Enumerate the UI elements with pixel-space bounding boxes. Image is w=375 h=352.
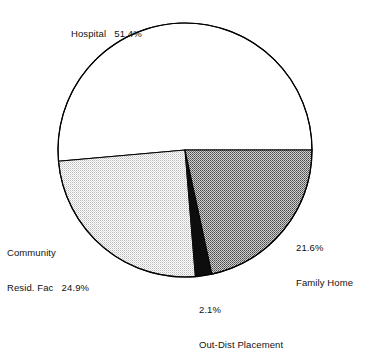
pie-label-family-home: 21.6% Family Home <box>296 219 353 311</box>
pie-label-community-resid-fac: Community Resid. Fac 24.9% <box>7 224 89 316</box>
pie-label-hospital-line1: Hospital 51.4% <box>71 28 142 40</box>
pie-label-hospital: Hospital 51.4% <box>71 5 142 63</box>
pie-label-community-line1: Community <box>7 247 89 259</box>
pie-label-out-dist-placement: 2.1% Out-Dist Placement <box>199 281 283 352</box>
pie-label-family-home-value: 21.6% <box>296 242 353 254</box>
pie-label-out-dist-value: 2.1% <box>199 304 283 316</box>
pie-label-community-line2: Resid. Fac 24.9% <box>7 282 89 294</box>
pie-label-family-home-name: Family Home <box>296 277 353 289</box>
pie-label-out-dist-name: Out-Dist Placement <box>199 339 283 351</box>
